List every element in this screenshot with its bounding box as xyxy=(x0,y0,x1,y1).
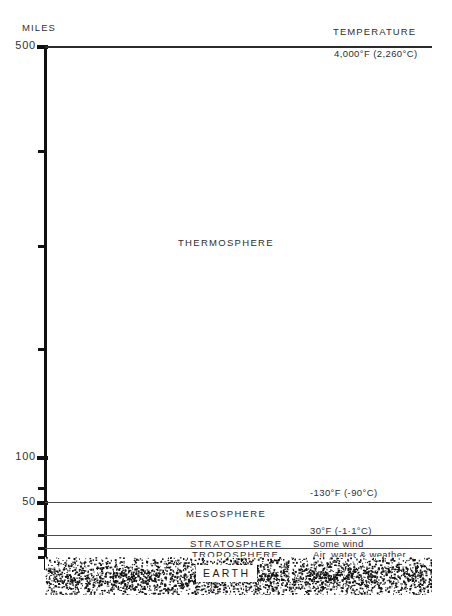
axis-tick-400 xyxy=(38,150,47,153)
layer-label-mesosphere: MESOSPHERE xyxy=(186,508,266,519)
axis-label-500: 500 xyxy=(4,39,36,51)
boundary-line-stratopause xyxy=(45,535,432,536)
boundary-line-mesopause xyxy=(45,502,432,503)
atmosphere-layers-diagram: MILES 500 100 50 TEMPERATURE 4,000°F (2,… xyxy=(0,0,452,616)
note-stratosphere: Some wind xyxy=(313,538,364,549)
temperature-stratopause: 30°F (-1·1°C) xyxy=(310,525,372,536)
temperature-mesopause: -130°F (-90°C) xyxy=(310,487,378,498)
axis-tick-200 xyxy=(38,348,47,351)
axis-label-50: 50 xyxy=(4,495,36,507)
layer-label-stratosphere: STRATOSPHERE xyxy=(190,538,282,549)
y-axis-line xyxy=(44,45,47,570)
earth-label: EARTH xyxy=(196,565,257,582)
axis-label-100: 100 xyxy=(4,450,36,462)
axis-tick-70 xyxy=(38,487,47,490)
axis-tick-100 xyxy=(37,456,48,460)
layer-label-thermosphere: THERMOSPHERE xyxy=(178,237,274,248)
temperature-column-header: TEMPERATURE xyxy=(333,26,416,37)
axis-tick-35 xyxy=(38,518,47,521)
y-axis-title: MILES xyxy=(22,22,56,33)
temperature-top: 4,000°F (2,260°C) xyxy=(334,48,418,59)
axis-tick-300 xyxy=(38,245,47,248)
